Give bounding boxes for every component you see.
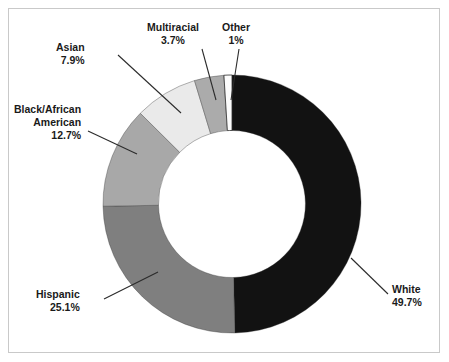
- slice-label-other: Other 1%: [222, 21, 250, 47]
- slice-label-other-name: Other: [222, 21, 250, 34]
- leader-line-asian: [118, 55, 181, 113]
- slice-label-multiracial-name: Multiracial: [147, 21, 199, 34]
- slice-label-multiracial: Multiracial 3.7%: [147, 21, 199, 47]
- slice-label-asian-name: Asian: [56, 41, 85, 54]
- slice-label-asian-value: 7.9%: [56, 54, 85, 67]
- donut-chart-figure: White 49.7% Hispanic 25.1% Black/African…: [0, 0, 449, 362]
- slice-label-white-name: White: [392, 283, 422, 296]
- slice-label-hispanic-value: 25.1%: [36, 301, 80, 314]
- slice-label-black-african-american-line2: American: [14, 116, 81, 129]
- slice-label-hispanic: Hispanic 25.1%: [36, 288, 80, 314]
- slice-label-other-value: 1%: [222, 34, 250, 47]
- slice-label-hispanic-name: Hispanic: [36, 288, 80, 301]
- slice-label-black-african-american-value: 12.7%: [14, 129, 81, 142]
- slice-label-white: White 49.7%: [392, 283, 422, 309]
- slice-label-black-african-american: Black/African American 12.7%: [14, 103, 81, 141]
- slice-label-multiracial-value: 3.7%: [147, 34, 199, 47]
- donut-slice-hispanic: [103, 205, 235, 333]
- slice-label-asian: Asian 7.9%: [56, 41, 85, 67]
- slice-label-black-african-american-line1: Black/African: [14, 103, 81, 116]
- slice-label-white-value: 49.7%: [392, 296, 422, 309]
- leader-line-white: [351, 258, 388, 294]
- donut-slice-white: [232, 75, 361, 333]
- donut-slice-group: [103, 75, 361, 333]
